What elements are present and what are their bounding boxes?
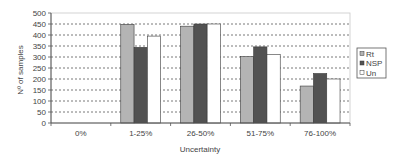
y-axis-title: Nº of samples bbox=[16, 45, 25, 95]
legend-swatch-un bbox=[360, 71, 364, 75]
y-tick-label: 250 bbox=[33, 64, 47, 73]
bar-nsp-1 bbox=[134, 47, 147, 123]
legend: RtNSPUn bbox=[357, 48, 386, 78]
x-tick-label: 51-75% bbox=[247, 129, 275, 138]
legend-swatch-rt bbox=[360, 52, 364, 56]
bar-nsp-2 bbox=[194, 24, 207, 123]
y-tick-label: 300 bbox=[33, 53, 47, 62]
y-tick-label: 400 bbox=[33, 31, 47, 40]
y-tick-label: 450 bbox=[33, 20, 47, 29]
bar-chart: 050100150200250300350400450500 0%1-25%26… bbox=[0, 0, 401, 163]
y-axis-ticks: 050100150200250300350400450500 bbox=[33, 9, 51, 128]
bar-rt-4 bbox=[300, 86, 313, 123]
bar-un-3 bbox=[267, 54, 280, 123]
bar-nsp-4 bbox=[313, 74, 326, 124]
y-tick-label: 50 bbox=[37, 108, 46, 117]
bar-rt-2 bbox=[181, 26, 194, 123]
bar-un-4 bbox=[327, 79, 340, 123]
y-tick-label: 200 bbox=[33, 75, 47, 84]
y-tick-label: 500 bbox=[33, 9, 47, 18]
x-tick-label: 1-25% bbox=[129, 129, 152, 138]
bar-un-2 bbox=[207, 24, 220, 123]
legend-label-un: Un bbox=[366, 69, 376, 78]
y-tick-label: 0 bbox=[42, 119, 47, 128]
bar-rt-1 bbox=[121, 24, 134, 123]
legend-swatch-nsp bbox=[360, 61, 364, 65]
legend-label-nsp: NSP bbox=[366, 59, 382, 68]
x-tick-label: 0% bbox=[75, 129, 87, 138]
y-tick-label: 350 bbox=[33, 42, 47, 51]
x-tick-label: 76-100% bbox=[304, 129, 336, 138]
x-axis-ticks: 0%1-25%26-50%51-75%76-100% bbox=[51, 123, 350, 138]
y-tick-label: 100 bbox=[33, 97, 47, 106]
x-tick-label: 26-50% bbox=[187, 129, 215, 138]
bar-rt-3 bbox=[240, 57, 253, 123]
y-tick-label: 150 bbox=[33, 86, 47, 95]
bar-nsp-3 bbox=[254, 47, 267, 123]
bar-un-1 bbox=[147, 36, 160, 123]
legend-label-rt: Rt bbox=[366, 50, 375, 59]
x-axis-title: Uncertainty bbox=[180, 145, 220, 154]
